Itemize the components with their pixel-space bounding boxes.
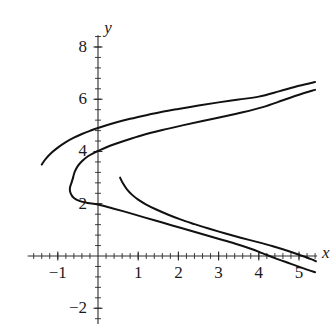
plot-root: −112345 −22468 x y — [0, 0, 334, 333]
y-tick-label: 6 — [79, 89, 88, 108]
y-tick-label: −2 — [69, 298, 87, 317]
x-tick-label: 4 — [255, 263, 264, 282]
x-tick-label: 3 — [214, 263, 223, 282]
x-axis-label: x — [321, 243, 330, 262]
plot-background — [0, 0, 334, 333]
function-plot: −112345 −22468 x y — [0, 0, 334, 333]
x-tick-label: 2 — [174, 263, 183, 282]
x-tick-label: 1 — [134, 263, 143, 282]
y-tick-label: 8 — [79, 37, 88, 56]
y-axis-label: y — [102, 18, 112, 37]
x-tick-label: −1 — [49, 263, 67, 282]
